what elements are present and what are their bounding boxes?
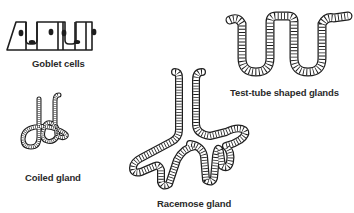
goblet-cells-label: Goblet cells bbox=[32, 58, 85, 69]
racemose-gland-label: Racemose gland bbox=[157, 198, 231, 209]
test-tube-glands-drawing bbox=[230, 16, 348, 72]
coiled-gland-drawing bbox=[23, 95, 66, 147]
goblet-cells-drawing bbox=[7, 22, 96, 50]
test-tube-glands-label: Test-tube shaped glands bbox=[230, 87, 339, 98]
coiled-gland-label: Coiled gland bbox=[25, 172, 81, 183]
